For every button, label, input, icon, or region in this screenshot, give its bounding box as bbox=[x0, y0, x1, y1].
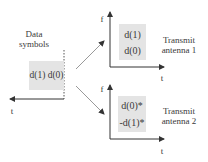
antenna2-f-label: f bbox=[98, 84, 106, 94]
antenna2-label-line1: Transmit bbox=[158, 106, 200, 116]
antenna2-label-line2: antenna 2 bbox=[158, 116, 200, 126]
antenna1-symbol-top: d(1) bbox=[119, 29, 146, 41]
source-title-line1: Data bbox=[14, 29, 54, 39]
arrow-to-antenna1 bbox=[76, 41, 104, 69]
source-t-label: t bbox=[7, 106, 17, 116]
antenna1-f-label: f bbox=[98, 14, 106, 24]
antenna2-symbol-bottom: -d(1)* bbox=[116, 117, 148, 129]
antenna1-symbol-bottom: d(0) bbox=[119, 45, 146, 57]
source-symbols: d(1) d(0) bbox=[29, 69, 64, 81]
antenna1-label-line2: antenna 1 bbox=[158, 45, 200, 55]
source-title: Data symbols bbox=[14, 29, 54, 49]
antenna2-label: Transmit antenna 2 bbox=[158, 106, 200, 126]
antenna1-label-line1: Transmit bbox=[158, 35, 200, 45]
antenna1-label: Transmit antenna 1 bbox=[158, 35, 200, 55]
antenna1-t-label: t bbox=[158, 73, 166, 83]
antenna2-symbol-top: d(0)* bbox=[118, 100, 146, 112]
source-title-line2: symbols bbox=[14, 39, 54, 49]
antenna2-t-label: t bbox=[158, 146, 166, 156]
